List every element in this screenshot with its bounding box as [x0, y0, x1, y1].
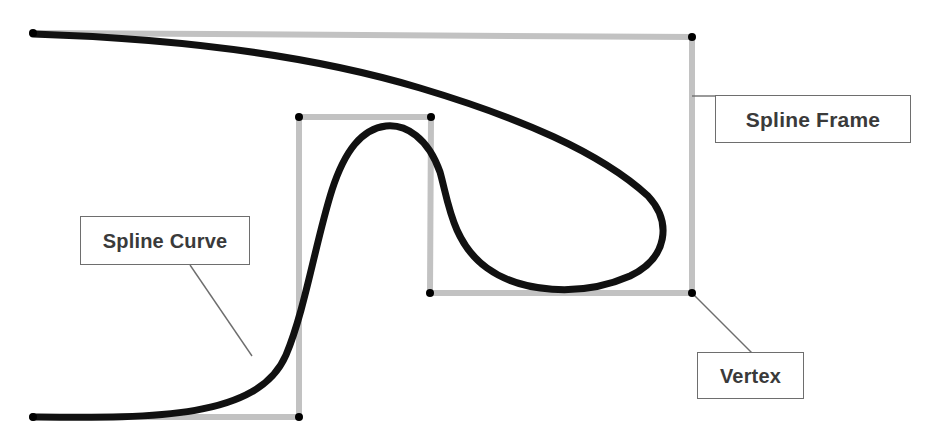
vertex-dot-frame-bottom-right-vertex[interactable]: [688, 289, 696, 297]
vertex-dot-frame-bottom-left-start[interactable]: [29, 413, 37, 421]
spline-curve-leader-line: [190, 265, 252, 356]
vertex-dot-inner-frame-top-left[interactable]: [295, 113, 303, 121]
callout-spline-curve[interactable]: Spline Curve: [80, 216, 250, 265]
callout-spline-frame[interactable]: Spline Frame: [715, 95, 911, 143]
vertex-dot-inner-frame-bottom-left[interactable]: [295, 413, 303, 421]
diagram-canvas: Spline Frame Spline Curve Vertex: [0, 0, 941, 446]
callout-vertex-label: Vertex: [720, 366, 781, 386]
vertex-dot-frame-top-right-vertex[interactable]: [688, 33, 696, 41]
vertex-dot-inner-frame-top-right[interactable]: [427, 113, 435, 121]
vertex-leader-line: [693, 294, 752, 353]
vertex-dot-inner-frame-bottom-right[interactable]: [426, 289, 434, 297]
callout-spline-frame-label: Spline Frame: [746, 109, 880, 130]
vertex-dot-frame-top-left-start[interactable]: [29, 29, 37, 37]
callout-spline-curve-label: Spline Curve: [103, 231, 228, 251]
callout-vertex[interactable]: Vertex: [697, 352, 804, 399]
